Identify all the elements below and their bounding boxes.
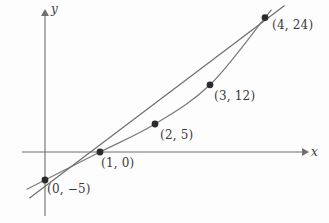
x-axis-label: x <box>311 145 318 159</box>
point-label-2: (2, 5) <box>160 128 193 142</box>
point-label-3: (3, 12) <box>214 89 255 103</box>
y-axis-label: y <box>51 2 58 16</box>
data-point-3 <box>207 81 214 88</box>
point-label-0: (0, −5) <box>47 182 91 196</box>
point-label-1: (1, 0) <box>101 156 134 170</box>
x-axis <box>22 148 309 156</box>
data-point-2 <box>152 121 159 128</box>
x-axis-arrowhead <box>302 148 309 156</box>
data-point-1 <box>97 149 104 156</box>
y-axis-arrowhead <box>41 9 49 16</box>
point-label-4: (4, 24) <box>272 18 313 32</box>
data-point-4 <box>262 14 269 21</box>
plot-figure: (0, −5) (1, 0) (2, 5) (3, 12) (4, 24) x … <box>0 0 329 223</box>
